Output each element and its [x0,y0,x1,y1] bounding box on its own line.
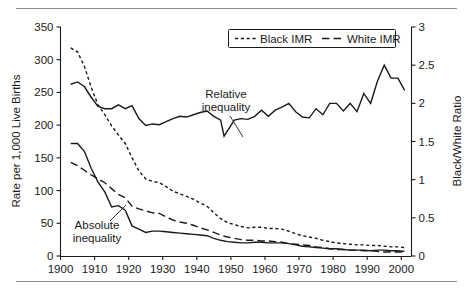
left-tick-label: 200 [34,119,53,131]
x-tick-label: 1990 [354,263,380,275]
svg-text:Relative: Relative [205,88,247,100]
right-tick-label: 0.5 [419,212,435,224]
series-group [71,48,405,252]
left-tick-label: 100 [34,185,53,197]
left-tick-label: 350 [34,21,53,33]
x-tick-label: 2000 [388,263,414,275]
relative-inequality-annotation: Relative inequality [202,88,251,137]
x-axis: 1900191019201930194019501960197019801990… [48,256,414,275]
series-black-imr [71,48,405,248]
right-tick-label: 3 [419,21,425,33]
left-tick-label: 50 [41,217,54,229]
right-tick-label: 2.5 [419,59,435,71]
left-axis: 050100150200250300350 Rate per 1,000 Liv… [10,21,61,262]
left-tick-label: 300 [34,54,53,66]
svg-text:inequality: inequality [73,232,122,244]
legend: Black IMR White IMR [229,30,401,48]
svg-text:Absolute: Absolute [75,219,120,231]
x-tick-label: 1900 [48,263,74,275]
legend-label-black-imr: Black IMR [260,33,312,45]
x-tick-label: 1910 [82,263,108,275]
legend-label-white-imr: White IMR [347,33,401,45]
x-tick-label: 1980 [320,263,346,275]
figure-container: 050100150200250300350 Rate per 1,000 Liv… [0,0,473,292]
x-tick-label: 1930 [150,263,176,275]
right-axis: 00.511.522.53 Black/White Ratio [412,21,464,262]
right-tick-label: 2 [419,97,425,109]
right-tick-label: 1.5 [419,136,435,148]
left-tick-label: 150 [34,152,53,164]
x-tick-label: 1950 [218,263,244,275]
x-tick-label: 1920 [116,263,142,275]
chart-plot: 050100150200250300350 Rate per 1,000 Liv… [0,0,473,292]
left-axis-title: Rate per 1,000 Live Births [10,74,22,207]
x-tick-label: 1970 [286,263,312,275]
left-tick-label: 250 [34,86,53,98]
right-axis-title: Black/White Ratio [451,96,463,187]
right-tick-label: 0 [419,250,425,262]
x-tick-label: 1940 [184,263,210,275]
x-tick-label: 1960 [252,263,278,275]
left-tick-label: 0 [47,250,53,262]
right-tick-label: 1 [419,174,425,186]
svg-text:inequality: inequality [202,101,251,113]
absolute-inequality-annotation: Absolute inequality [73,205,126,244]
